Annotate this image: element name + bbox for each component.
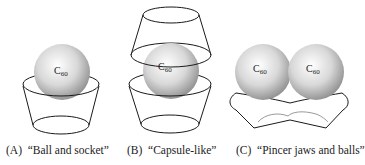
caption-text: “Pincer jaws and balls” (257, 144, 365, 156)
panel-a-ball-and-socket: C60 (23, 44, 99, 134)
caption-b: (B) “Capsule-like” (127, 144, 216, 156)
caption-letter: (B) (127, 144, 142, 156)
socket-bottom (33, 116, 89, 134)
pincer-jaws (230, 93, 348, 128)
caption-c: (C) “Pincer jaws and balls” (236, 144, 365, 156)
caption-letter: (C) (236, 144, 251, 156)
caption-letter: (A) (6, 144, 22, 156)
panel-c-pincer: C60 C60 (230, 44, 348, 128)
panel-b-capsule: C60 (129, 7, 211, 133)
caption-text: “Ball and socket” (28, 144, 109, 156)
caption-a: (A) “Ball and socket” (6, 144, 109, 156)
caption-text: “Capsule-like” (148, 144, 216, 156)
